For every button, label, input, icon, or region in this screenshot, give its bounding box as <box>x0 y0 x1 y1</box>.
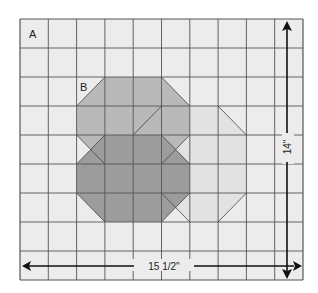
quilt-layout-diagram: A B 15 1/2" 14" <box>0 0 318 293</box>
label-a: A <box>29 28 37 40</box>
height-label: 14" <box>282 139 293 154</box>
width-label: 15 1/2" <box>148 261 180 272</box>
label-b: B <box>80 81 87 93</box>
